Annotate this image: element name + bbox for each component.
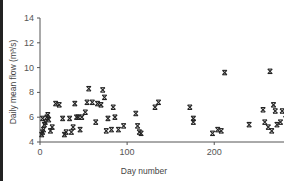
x-marker-icon — [135, 124, 139, 128]
x-marker-icon — [280, 109, 284, 113]
x-marker-icon — [80, 115, 84, 119]
x-marker-icon — [101, 88, 105, 92]
x-marker-icon — [283, 113, 284, 117]
data-points — [40, 22, 284, 137]
x-marker-icon — [273, 109, 277, 113]
x-marker-icon — [261, 108, 265, 112]
scatter-chart: 4681012140100200300 Day number Daily mea… — [0, 0, 284, 181]
x-marker-icon — [102, 95, 106, 99]
x-marker-icon — [156, 100, 160, 104]
x-marker-icon — [139, 131, 143, 135]
x-marker-icon — [116, 127, 120, 131]
x-marker-icon — [121, 124, 125, 128]
x-marker-icon — [73, 101, 77, 105]
y-tick-label: 10 — [24, 63, 34, 73]
x-marker-icon — [113, 115, 117, 119]
x-tick-label: 0 — [37, 147, 42, 157]
y-axis-label: Daily mean flow (m³/s) — [8, 40, 18, 125]
y-tick-label: 8 — [29, 87, 34, 97]
x-marker-icon — [60, 116, 64, 120]
x-marker-icon — [67, 116, 71, 120]
x-marker-icon — [270, 129, 274, 133]
x-marker-icon — [71, 125, 75, 129]
x-marker-icon — [153, 105, 157, 109]
y-tick-label: 12 — [24, 38, 34, 48]
x-axis-label: Day number — [121, 166, 167, 176]
x-marker-icon — [109, 127, 113, 131]
x-marker-icon — [104, 129, 108, 133]
y-tick-label: 14 — [24, 13, 34, 23]
x-marker-icon — [78, 127, 82, 131]
x-marker-icon — [134, 111, 138, 115]
x-marker-icon — [90, 100, 94, 104]
x-marker-icon — [85, 100, 89, 104]
x-tick-label: 200 — [207, 147, 222, 157]
x-marker-icon — [223, 70, 227, 74]
x-marker-icon — [106, 116, 110, 120]
x-marker-icon — [94, 120, 98, 124]
x-tick-label: 100 — [120, 147, 135, 157]
x-marker-icon — [247, 122, 251, 126]
x-marker-icon — [268, 69, 272, 73]
x-marker-icon — [263, 120, 267, 124]
x-marker-icon — [271, 103, 275, 107]
x-marker-icon — [87, 86, 91, 90]
y-tick-label: 6 — [29, 112, 34, 122]
x-marker-icon — [69, 130, 73, 134]
x-marker-icon — [83, 110, 87, 114]
x-marker-icon — [210, 131, 214, 135]
x-marker-icon — [188, 105, 192, 109]
x-marker-icon — [111, 105, 115, 109]
y-tick-label: 4 — [29, 137, 34, 147]
